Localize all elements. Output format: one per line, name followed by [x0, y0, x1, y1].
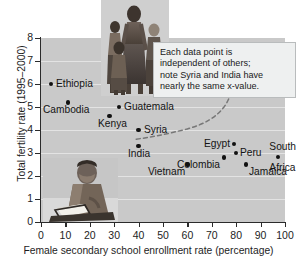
x-tick-label: 50	[150, 229, 176, 241]
x-tick	[285, 222, 286, 227]
x-tick-label: 80	[223, 229, 249, 241]
x-tick-label: 60	[174, 229, 200, 241]
data-point-ethiopia	[49, 82, 53, 86]
x-tick	[187, 222, 188, 227]
x-tick	[139, 222, 140, 227]
note-line-1: Each data point is	[160, 47, 290, 58]
point-label-ethiopia: Ethiopia	[56, 79, 93, 90]
x-tick	[114, 222, 115, 227]
note-line-3: note Syria and India have	[160, 70, 290, 81]
x-tick-label: 40	[126, 229, 152, 241]
y-tick	[35, 61, 41, 62]
annotation-note: Each data point is independent of others…	[153, 42, 296, 98]
y-tick	[35, 130, 41, 131]
y-tick	[35, 153, 41, 154]
y-tick	[35, 38, 41, 39]
x-tick	[212, 222, 213, 227]
x-tick	[65, 222, 66, 227]
point-label-southafrica-line2: Africa	[269, 162, 295, 173]
data-point-colombia	[222, 155, 226, 159]
x-tick	[163, 222, 164, 227]
x-tick-label: 100	[272, 229, 297, 241]
figure: Each data point is independent of others…	[0, 0, 297, 270]
x-tick-label: 30	[101, 229, 127, 241]
note-line-2: independent of others;	[160, 58, 290, 69]
data-point-jamaica	[244, 162, 248, 166]
y-tick-label: 0	[11, 215, 33, 227]
y-tick	[35, 107, 41, 108]
x-tick	[41, 222, 42, 227]
x-tick	[236, 222, 237, 227]
y-tick	[35, 199, 41, 200]
x-tick-label: 90	[248, 229, 274, 241]
y-axis-title: Total fertility rate (1995–2000)	[16, 17, 27, 211]
x-tick	[90, 222, 91, 227]
x-tick	[261, 222, 262, 227]
point-label-colombia: Colombia	[177, 160, 220, 171]
point-label-syria: Syria	[144, 125, 167, 136]
data-point-syria	[136, 128, 140, 132]
y-tick	[35, 176, 41, 177]
point-label-egypt: Egypt	[204, 139, 230, 150]
point-label-india: India	[128, 149, 150, 160]
x-tick-label: 10	[52, 229, 78, 241]
point-label-cambodia: Cambodia	[43, 105, 89, 116]
point-label-guatemala: Guatemala	[124, 102, 174, 113]
point-label-southafrica: South Africa	[256, 131, 297, 184]
x-tick-label: 70	[199, 229, 225, 241]
x-tick-label: 20	[77, 229, 103, 241]
x-tick-label: 0	[28, 229, 54, 241]
note-line-4: nearly the same x-value.	[160, 81, 290, 92]
x-axis-title: Female secondary school enrollment rate …	[0, 245, 297, 256]
point-label-southafrica-line1: South	[269, 141, 296, 152]
data-point-egypt	[232, 142, 236, 146]
point-label-kenya: Kenya	[98, 119, 127, 130]
y-tick	[35, 84, 41, 85]
